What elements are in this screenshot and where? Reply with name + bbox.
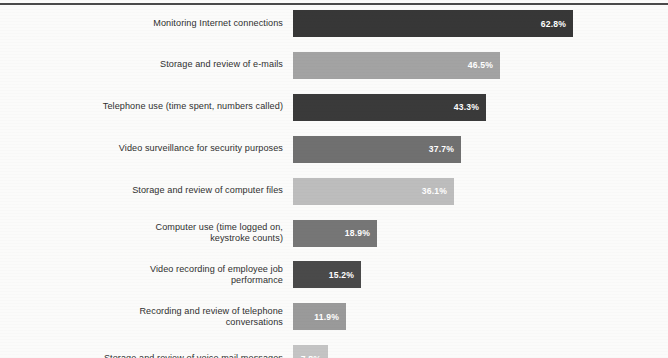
category-label: Video surveillance for security purposes (0, 143, 283, 154)
bar: 43.3% (293, 94, 486, 121)
chart-row: Computer use (time logged on, keystroke … (0, 220, 668, 247)
category-label: Computer use (time logged on, keystroke … (0, 222, 283, 245)
chart-row: Storage and review of computer files36.1… (0, 178, 668, 205)
bar-value-label: 18.9% (345, 228, 370, 238)
bar-value-label: 15.2% (329, 270, 354, 280)
chart-page: Monitoring Internet connections62.8%Stor… (0, 0, 668, 358)
chart-row: Storage and review of voice mail message… (0, 345, 668, 358)
bar: 7.8% (293, 345, 328, 358)
chart-row: Video recording of employee job performa… (0, 261, 668, 288)
bar: 36.1% (293, 178, 454, 205)
bar: 62.8% (293, 10, 573, 37)
category-label: Recording and review of telephone conver… (0, 305, 283, 328)
bar: 11.9% (293, 303, 346, 330)
bar: 15.2% (293, 261, 361, 288)
bar-value-label: 11.9% (314, 312, 339, 322)
bar-value-label: 37.7% (429, 144, 454, 154)
bar: 37.7% (293, 136, 461, 163)
bar-value-label: 46.5% (468, 60, 493, 70)
chart-row: Telephone use (time spent, numbers calle… (0, 94, 668, 121)
bar: 46.5% (293, 52, 500, 79)
chart-row: Monitoring Internet connections62.8% (0, 10, 668, 37)
chart-row: Recording and review of telephone conver… (0, 303, 668, 330)
category-label: Storage and review of voice mail message… (0, 353, 283, 358)
bar-value-label: 36.1% (422, 186, 447, 196)
category-label: Monitoring Internet connections (0, 18, 283, 29)
bar-value-label: 7.8% (301, 354, 321, 358)
bar-value-label: 43.3% (454, 102, 479, 112)
category-label: Storage and review of computer files (0, 185, 283, 196)
category-label: Video recording of employee job performa… (0, 263, 283, 286)
bar: 18.9% (293, 220, 377, 247)
bar-value-label: 62.8% (541, 19, 566, 29)
chart-row: Storage and review of e-mails46.5% (0, 52, 668, 79)
category-label: Telephone use (time spent, numbers calle… (0, 102, 283, 113)
category-label: Storage and review of e-mails (0, 60, 283, 71)
bar-chart-plot-area: Monitoring Internet connections62.8%Stor… (0, 0, 668, 358)
chart-row: Video surveillance for security purposes… (0, 136, 668, 163)
